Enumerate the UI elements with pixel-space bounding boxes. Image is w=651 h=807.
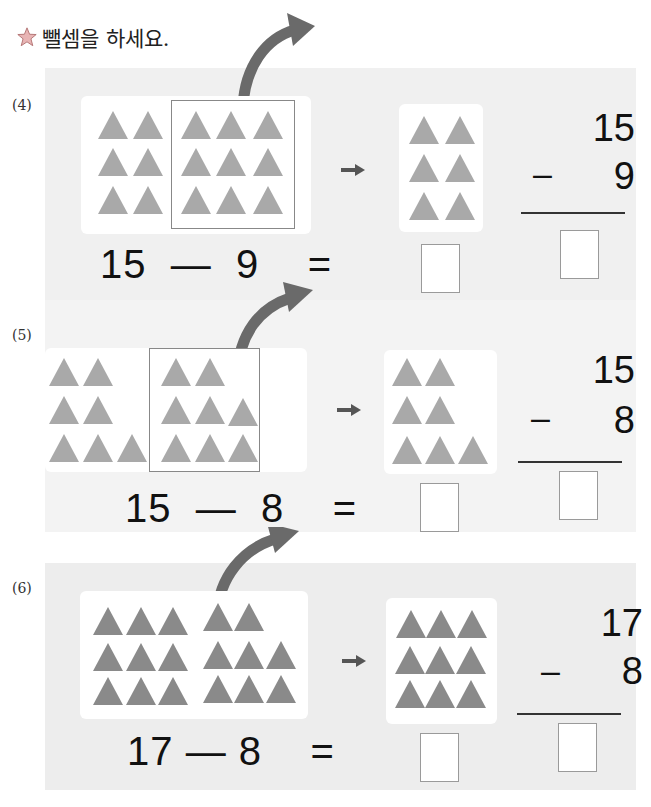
right-arrow-icon bbox=[341, 164, 365, 176]
right-arrow-icon bbox=[337, 404, 361, 416]
vertical-minus: – bbox=[531, 398, 550, 437]
vertical-top: 17 bbox=[573, 603, 643, 643]
problem-6-panel: 17 — 8 = 17 – 8 bbox=[45, 563, 636, 790]
vertical-bottom: 8 bbox=[565, 400, 635, 440]
answer-box-horizontal[interactable] bbox=[420, 483, 459, 532]
equation: 17 — 8 = bbox=[127, 729, 335, 774]
sum-line bbox=[521, 212, 625, 214]
vertical-minus: – bbox=[533, 154, 552, 193]
full-set-card bbox=[81, 96, 311, 234]
answer-box-horizontal[interactable] bbox=[421, 244, 460, 293]
remaining-card bbox=[399, 104, 483, 232]
vertical-top: 15 bbox=[565, 350, 635, 390]
problem-number-6: (6) bbox=[12, 580, 32, 596]
sum-line bbox=[518, 461, 622, 463]
answer-box-horizontal[interactable] bbox=[420, 733, 459, 782]
problem-4-panel: 15 — 9 = 15 – 9 bbox=[45, 68, 636, 300]
answer-box-vertical[interactable] bbox=[559, 471, 598, 520]
full-set-card bbox=[80, 591, 308, 719]
vertical-bottom: 8 bbox=[573, 651, 643, 691]
remaining-card bbox=[386, 598, 497, 724]
full-set-card bbox=[45, 348, 307, 472]
answer-box-vertical[interactable] bbox=[560, 230, 599, 279]
remaining-card bbox=[384, 350, 497, 474]
vertical-top: 15 bbox=[565, 108, 635, 148]
problem-5-panel: 15 — 8 = 15 – 8 bbox=[45, 300, 636, 532]
instruction: 뺄셈을 하세요. bbox=[16, 22, 169, 52]
star-icon bbox=[16, 26, 38, 48]
sum-line bbox=[517, 713, 621, 715]
equation: 15 — 8 = bbox=[125, 486, 357, 531]
answer-box-vertical[interactable] bbox=[558, 723, 597, 772]
problem-number-4: (4) bbox=[12, 97, 32, 113]
vertical-minus: – bbox=[541, 651, 560, 690]
vertical-bottom: 9 bbox=[565, 156, 635, 196]
problem-number-5: (5) bbox=[12, 327, 32, 343]
instruction-text: 뺄셈을 하세요. bbox=[42, 22, 169, 52]
curved-arrow-icon bbox=[215, 8, 315, 108]
cut-off-title bbox=[70, 0, 330, 4]
right-arrow-icon bbox=[342, 655, 366, 667]
